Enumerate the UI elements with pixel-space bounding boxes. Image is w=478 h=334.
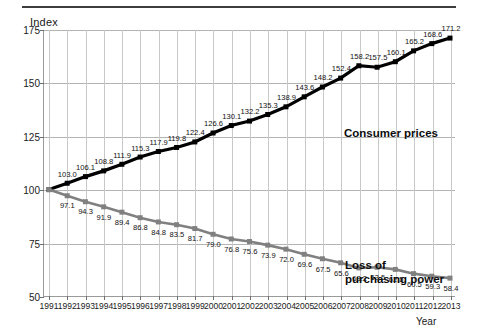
y-tick-label: 100	[23, 185, 40, 196]
series-marker	[229, 236, 234, 241]
y-tick-label: 150	[23, 78, 40, 89]
data-label: 119.8	[168, 134, 186, 143]
data-label: 132.2	[240, 107, 259, 116]
data-label: 75.6	[243, 247, 258, 256]
data-label: 91.9	[96, 213, 111, 222]
series-marker	[320, 256, 325, 261]
x-tick-label: 1998	[167, 301, 186, 311]
x-tick-label: 1991	[40, 301, 59, 311]
series-marker	[283, 247, 288, 252]
y-tick-label: 125	[23, 131, 40, 142]
series-marker	[302, 252, 307, 257]
x-tick-label: 2012	[423, 301, 442, 311]
x-tick-mark	[414, 296, 415, 300]
x-tick-label: 1994	[94, 301, 113, 311]
x-tick-label: 2010	[387, 301, 406, 311]
series-marker	[448, 36, 453, 41]
series-marker	[448, 276, 453, 281]
x-tick-label: 2011	[405, 301, 423, 311]
x-tick-mark	[49, 296, 50, 300]
series-marker	[338, 260, 343, 265]
x-tick-mark	[122, 296, 123, 300]
series-marker	[247, 239, 252, 244]
data-label: 157.5	[368, 53, 387, 62]
x-tick-mark	[195, 296, 196, 300]
data-label: 103.0	[58, 170, 77, 179]
y-tick-label: 75	[29, 238, 40, 249]
data-label: 171.2	[441, 24, 460, 33]
series-marker	[211, 232, 216, 237]
data-label: 58.4	[444, 284, 459, 293]
data-label: 81.7	[188, 234, 203, 243]
data-label: 108.8	[94, 157, 113, 166]
series-marker	[429, 41, 434, 46]
series-marker	[156, 219, 161, 224]
data-label: 117.9	[149, 138, 167, 147]
x-tick-mark	[104, 296, 105, 300]
x-axis-title: Year	[416, 316, 436, 327]
x-tick-mark	[268, 296, 269, 300]
series-marker	[101, 168, 106, 173]
series-marker	[119, 210, 124, 215]
series-marker	[393, 59, 398, 64]
series-marker	[375, 65, 380, 70]
x-tick-mark	[341, 296, 342, 300]
series-marker	[320, 85, 325, 90]
series-marker	[283, 104, 288, 109]
x-tick-mark	[305, 296, 306, 300]
x-tick-label: 2009	[368, 301, 387, 311]
data-label: 69.6	[297, 260, 312, 269]
series-marker	[229, 123, 234, 128]
x-tick-mark	[159, 296, 160, 300]
data-label: 89.4	[115, 218, 130, 227]
data-label: 158.2	[350, 52, 369, 61]
data-label: 111.9	[113, 151, 131, 160]
data-label: 126.6	[204, 119, 223, 128]
x-tick-mark	[232, 296, 233, 300]
series-marker	[247, 119, 252, 124]
series-marker	[156, 149, 161, 154]
series-marker	[211, 131, 216, 136]
series-label-loss-of-purchasing-power: Loss of purchasing power	[345, 258, 444, 287]
x-tick-label: 2013	[442, 301, 461, 311]
x-tick-mark	[140, 296, 141, 300]
x-tick-label: 1995	[113, 301, 132, 311]
x-tick-label: 2005	[295, 301, 314, 311]
x-tick-mark	[213, 296, 214, 300]
x-tick-mark	[323, 296, 324, 300]
data-label: 135.3	[259, 101, 278, 110]
data-label: 122.4	[186, 128, 205, 137]
series-marker	[265, 112, 270, 117]
x-tick-mark	[67, 296, 68, 300]
x-tick-label: 2008	[350, 301, 369, 311]
data-label: 83.5	[170, 230, 185, 239]
data-label: 143.6	[295, 83, 314, 92]
x-tick-label: 1992	[58, 301, 77, 311]
x-tick-mark	[360, 296, 361, 300]
series-marker	[65, 193, 70, 198]
series-marker	[138, 215, 143, 220]
y-tick-label: 50	[29, 292, 40, 303]
x-tick-mark	[433, 296, 434, 300]
data-label: 97.1	[60, 201, 75, 210]
series-marker	[83, 199, 88, 204]
series-marker	[174, 222, 179, 227]
x-tick-label: 1997	[149, 301, 168, 311]
data-label: 84.8	[151, 228, 166, 237]
series-marker	[101, 204, 106, 209]
x-tick-mark	[378, 296, 379, 300]
series-marker	[356, 63, 361, 68]
x-tick-label: 2003	[259, 301, 278, 311]
x-tick-label: 1996	[131, 301, 150, 311]
data-label: 72.0	[279, 255, 294, 264]
x-tick-mark	[250, 296, 251, 300]
data-label: 86.8	[133, 223, 148, 232]
data-label: 168.6	[423, 30, 442, 39]
x-tick-label: 1993	[76, 301, 95, 311]
x-tick-label: 2007	[332, 301, 351, 311]
x-tick-mark	[177, 296, 178, 300]
series-marker	[138, 155, 143, 160]
x-tick-mark	[287, 296, 288, 300]
series-marker	[65, 181, 70, 186]
plot-area: 1751501251007550 19911992199319941995199…	[43, 30, 455, 297]
